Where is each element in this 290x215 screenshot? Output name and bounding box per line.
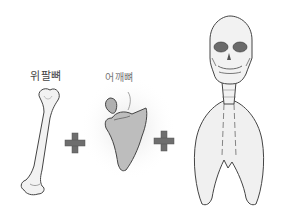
eye-socket-right xyxy=(233,42,247,52)
humerus-label: 위팔뼈 xyxy=(30,67,62,83)
humerus-bone-icon xyxy=(21,89,59,195)
scapula-label: 어깨뼈 xyxy=(105,69,134,84)
skull-ribcage-icon xyxy=(194,16,263,205)
eye-socket-left xyxy=(214,42,228,52)
illustration-canvas xyxy=(0,0,290,215)
bone-illustration: 위팔뼈 어깨뼈 xyxy=(0,0,290,215)
